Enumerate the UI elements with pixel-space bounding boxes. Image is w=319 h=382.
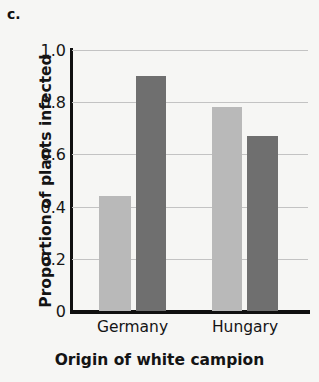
y-axis-tick-label: 0 bbox=[56, 302, 66, 321]
y-axis-tick-label: 0.8 bbox=[41, 93, 66, 112]
bar bbox=[99, 196, 131, 311]
x-axis-tick-label: Germany bbox=[97, 318, 168, 336]
gridline bbox=[72, 102, 308, 103]
y-axis-tick-label: 0.6 bbox=[41, 145, 66, 164]
x-axis-tick-label: Hungary bbox=[212, 318, 278, 336]
chart-figure: c. Proportion of plants infected 00.20.4… bbox=[0, 0, 319, 382]
y-axis-tick-label: 0.4 bbox=[41, 197, 66, 216]
x-axis-title: Origin of white campion bbox=[0, 351, 319, 369]
y-axis-title: Proportion of plants infected bbox=[37, 46, 55, 316]
bar bbox=[212, 107, 242, 311]
panel-label: c. bbox=[7, 6, 21, 22]
bar bbox=[247, 136, 278, 311]
bar bbox=[136, 76, 166, 311]
y-axis-tick-label: 1.0 bbox=[41, 41, 66, 60]
gridline bbox=[72, 50, 308, 51]
y-axis-tick-label: 0.2 bbox=[41, 249, 66, 268]
plot-area: 00.20.40.60.81.0 bbox=[72, 50, 308, 311]
